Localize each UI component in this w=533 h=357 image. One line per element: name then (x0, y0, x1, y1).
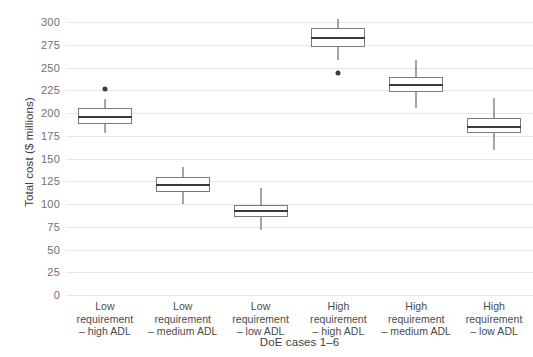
upper-whisker (416, 60, 417, 76)
upper-whisker (104, 99, 105, 108)
lower-whisker (182, 192, 183, 204)
outlier-point (336, 70, 341, 75)
upper-whisker (260, 188, 261, 205)
plot-area (66, 22, 533, 295)
y-tick-label: 100 (0, 198, 60, 210)
box-plot-item (455, 22, 533, 295)
box-plot-item (144, 22, 222, 295)
y-tick-label: 175 (0, 130, 60, 142)
y-tick-label: 200 (0, 107, 60, 119)
lower-whisker (260, 217, 261, 231)
y-tick-label: 50 (0, 244, 60, 256)
y-tick-label: 25 (0, 266, 60, 278)
y-tick-label: 150 (0, 153, 60, 165)
median-line (311, 37, 365, 39)
x-axis-title: DoE cases 1–6 (66, 336, 533, 348)
y-axis-tick-labels: 0255075100125150175200225250275300 (0, 22, 60, 295)
y-tick-label: 275 (0, 39, 60, 51)
y-tick-label: 0 (0, 289, 60, 301)
upper-whisker (494, 98, 495, 118)
lower-whisker (338, 47, 339, 60)
outlier-point (102, 87, 107, 92)
y-tick-label: 250 (0, 62, 60, 74)
upper-whisker (338, 19, 339, 28)
lower-whisker (416, 92, 417, 107)
box-plot-item (222, 22, 300, 295)
y-tick-label: 75 (0, 221, 60, 233)
box-plot-item (377, 22, 455, 295)
gridline-0 (66, 295, 533, 296)
box-plot-item (300, 22, 378, 295)
median-line (156, 184, 210, 186)
x-tick-label: High requirement – low ADL (447, 300, 533, 338)
lower-whisker (104, 124, 105, 133)
box-plot-item (66, 22, 144, 295)
boxplot-figure: Total cost ($ millions) 0255075100125150… (0, 0, 533, 357)
y-tick-label: 125 (0, 175, 60, 187)
lower-whisker (494, 133, 495, 150)
median-line (389, 84, 443, 86)
median-line (467, 126, 521, 128)
y-tick-label: 300 (0, 16, 60, 28)
upper-whisker (182, 167, 183, 177)
y-tick-label: 225 (0, 84, 60, 96)
median-line (78, 116, 132, 118)
median-line (234, 210, 288, 212)
